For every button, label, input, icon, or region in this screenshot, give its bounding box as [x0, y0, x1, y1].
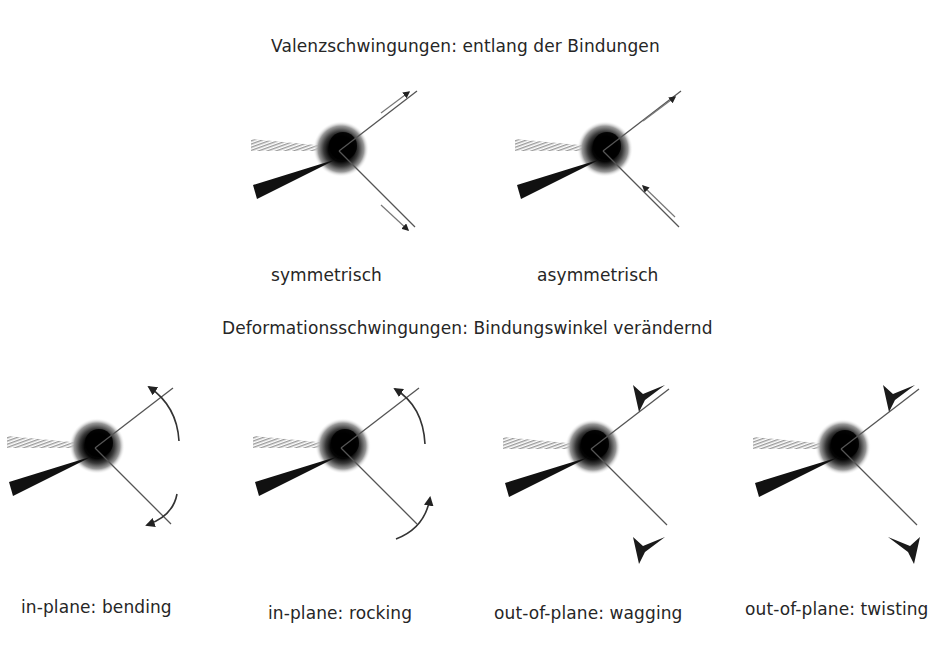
curved-arrow-icon [396, 498, 430, 539]
molecule-symmetric [251, 91, 417, 230]
arrow-out-icon [643, 97, 675, 121]
molecule-rocking [253, 388, 430, 539]
curved-arrow-icon [147, 494, 177, 525]
molecule-wagging [503, 385, 669, 564]
arrowhead-icon [883, 385, 915, 412]
molecule-asymmetric [515, 91, 681, 227]
curved-arrow-icon [395, 389, 425, 444]
arrow-out-icon [381, 92, 409, 113]
vibration-diagrams [0, 0, 941, 652]
arrowhead-icon [633, 537, 665, 564]
arrow-in-icon [643, 186, 675, 217]
arrowhead-icon [633, 385, 665, 412]
arrowhead-icon [888, 537, 920, 564]
molecule-twisting [753, 385, 920, 564]
arrow-out-icon [381, 205, 408, 230]
molecule-bending [7, 387, 179, 525]
